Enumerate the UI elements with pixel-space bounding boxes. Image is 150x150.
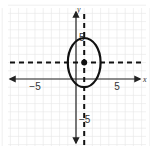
ellipse-graph: x y −555−5 — [0, 0, 150, 150]
points — [81, 60, 87, 66]
x-tick-label: 5 — [114, 81, 120, 92]
x-tick-label: −5 — [29, 81, 41, 92]
x-axis-label: x — [142, 75, 147, 84]
center-point — [81, 60, 87, 66]
y-axis-label: y — [76, 5, 81, 14]
